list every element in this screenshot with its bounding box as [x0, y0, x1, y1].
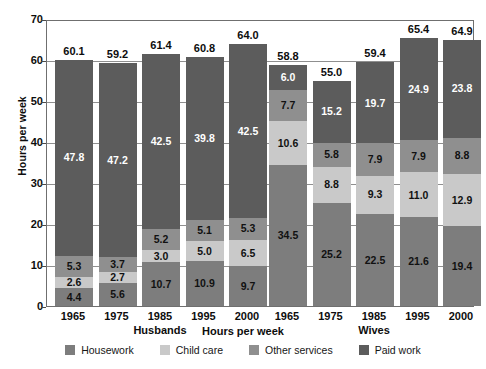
bar-husbands-1995[interactable]: 10.95.05.139.860.8	[186, 57, 224, 306]
bar-segment-housework[interactable]: 10.7	[142, 262, 180, 306]
bar-wives-1965[interactable]: 34.510.67.76.058.8	[269, 65, 307, 306]
bar-segment-child-care[interactable]: 5.0	[186, 241, 224, 262]
bar-segment-child-care[interactable]: 3.0	[142, 250, 180, 262]
bar-husbands-2000[interactable]: 9.76.55.342.564.0	[229, 44, 267, 306]
bar-segment-other-services[interactable]: 7.9	[356, 143, 394, 175]
legend-item-child-care[interactable]: Child care	[160, 344, 223, 356]
y-axis-tick-70: 70	[9, 13, 43, 25]
legend-label: Paid work	[375, 344, 421, 356]
bar-segment-housework[interactable]: 21.6	[400, 217, 438, 306]
bar-segment-paid-work[interactable]: 15.2	[313, 81, 351, 143]
bar-segment-paid-work[interactable]: 39.8	[186, 57, 224, 220]
legend-swatch-icon	[160, 345, 170, 355]
legend-label: Other services	[265, 344, 333, 356]
bar-segment-paid-work[interactable]: 19.7	[356, 62, 394, 143]
segment-value-label: 10.6	[278, 138, 298, 149]
bar-segment-paid-work[interactable]: 23.8	[443, 40, 481, 138]
x-axis-tick-husbands-1965: 1965	[48, 310, 98, 322]
y-axis-tick-0: 0	[9, 300, 43, 312]
segment-value-label: 2.7	[110, 272, 125, 283]
gridline	[47, 20, 473, 21]
segment-value-label: 10.7	[151, 279, 171, 290]
bar-segment-paid-work[interactable]: 47.2	[99, 63, 137, 257]
bar-segment-housework[interactable]: 25.2	[313, 203, 351, 306]
bar-wives-1995[interactable]: 21.611.07.924.965.4	[400, 38, 438, 306]
segment-value-label: 34.5	[278, 230, 298, 241]
bar-segment-paid-work[interactable]: 42.5	[142, 54, 180, 228]
segment-value-label: 19.4	[452, 261, 472, 272]
bar-segment-paid-work[interactable]: 47.8	[55, 60, 93, 256]
bar-segment-child-care[interactable]: 2.6	[55, 277, 93, 288]
bar-segment-other-services[interactable]: 3.7	[99, 257, 137, 272]
segment-value-label: 11.0	[409, 190, 429, 201]
segment-value-label: 8.8	[455, 150, 470, 161]
bar-segment-child-care[interactable]: 2.7	[99, 272, 137, 283]
bar-segment-other-services[interactable]: 5.3	[229, 218, 267, 240]
legend-swatch-icon	[359, 345, 369, 355]
bar-segment-child-care[interactable]: 11.0	[400, 172, 438, 217]
bar-segment-other-services[interactable]: 5.1	[186, 220, 224, 241]
legend-item-paid-work[interactable]: Paid work	[359, 344, 421, 356]
chart-legend: HouseworkChild careOther servicesPaid wo…	[0, 344, 486, 356]
y-axis-tick-10: 10	[9, 259, 43, 271]
bar-segment-other-services[interactable]: 5.3	[55, 256, 93, 278]
bar-segment-child-care[interactable]: 6.5	[229, 240, 267, 267]
bar-segment-child-care[interactable]: 9.3	[356, 176, 394, 214]
bar-segment-other-services[interactable]: 8.8	[443, 138, 481, 174]
bar-wives-1975[interactable]: 25.28.85.815.255.0	[313, 81, 351, 306]
bar-segment-housework[interactable]: 5.6	[99, 283, 137, 306]
bar-segment-other-services[interactable]: 5.8	[313, 143, 351, 167]
segment-value-label: 6.0	[281, 72, 296, 83]
x-axis-tick-wives-1965: 1965	[262, 310, 312, 322]
bar-husbands-1975[interactable]: 5.62.73.747.259.2	[99, 63, 137, 306]
bar-total-label: 60.8	[180, 43, 230, 54]
segment-value-label: 4.4	[67, 292, 82, 303]
segment-value-label: 9.3	[368, 189, 383, 200]
bar-segment-child-care[interactable]: 12.9	[443, 174, 481, 227]
bar-husbands-1965[interactable]: 4.42.65.347.860.1	[55, 60, 93, 306]
segment-value-label: 5.0	[197, 246, 212, 257]
segment-value-label: 5.8	[324, 149, 339, 160]
legend-label: Child care	[176, 344, 223, 356]
segment-value-label: 23.8	[452, 83, 472, 94]
bar-segment-other-services[interactable]: 7.7	[269, 90, 307, 122]
bar-segment-paid-work[interactable]: 6.0	[269, 65, 307, 90]
x-axis-tick-wives-1995: 1995	[393, 310, 443, 322]
segment-value-label: 5.2	[154, 234, 169, 245]
bar-segment-housework[interactable]: 19.4	[443, 226, 481, 306]
bar-segment-housework[interactable]: 4.4	[55, 288, 93, 306]
y-axis-tick-30: 30	[9, 177, 43, 189]
x-axis-tick-wives-1975: 1975	[306, 310, 356, 322]
stacked-bar-chart: Hours per week 010203040506070 4.42.65.3…	[0, 0, 486, 369]
segment-value-label: 3.7	[110, 259, 125, 270]
segment-value-label: 5.1	[197, 225, 212, 236]
segment-value-label: 12.9	[452, 195, 472, 206]
segment-value-label: 25.2	[321, 249, 341, 260]
segment-value-label: 39.8	[194, 133, 214, 144]
bar-segment-housework[interactable]: 9.7	[229, 266, 267, 306]
segment-value-label: 3.0	[154, 251, 169, 262]
bar-segment-paid-work[interactable]: 42.5	[229, 44, 267, 218]
legend-item-other-services[interactable]: Other services	[249, 344, 333, 356]
bar-segment-housework[interactable]: 10.9	[186, 261, 224, 306]
segment-value-label: 5.6	[110, 289, 125, 300]
bar-wives-2000[interactable]: 19.412.98.823.864.9	[443, 40, 481, 306]
bar-husbands-1985[interactable]: 10.73.05.242.561.4	[142, 54, 180, 306]
x-axis-tick-wives-2000: 2000	[436, 310, 486, 322]
bar-wives-1985[interactable]: 22.59.37.919.759.4	[356, 62, 394, 306]
bar-segment-paid-work[interactable]: 24.9	[400, 38, 438, 140]
segment-value-label: 2.6	[67, 277, 82, 288]
segment-value-label: 19.7	[365, 98, 385, 109]
segment-value-label: 42.5	[238, 126, 258, 137]
bar-total-label: 65.4	[394, 24, 444, 35]
bar-segment-child-care[interactable]: 10.6	[269, 121, 307, 164]
bar-segment-other-services[interactable]: 5.2	[142, 229, 180, 250]
bar-segment-child-care[interactable]: 8.8	[313, 167, 351, 203]
bar-segment-housework[interactable]: 22.5	[356, 214, 394, 306]
plot-area: 4.42.65.347.860.15.62.73.747.259.210.73.…	[46, 20, 474, 307]
bar-segment-other-services[interactable]: 7.9	[400, 140, 438, 172]
bar-segment-housework[interactable]: 34.5	[269, 165, 307, 306]
segment-value-label: 47.2	[107, 155, 127, 166]
legend-item-housework[interactable]: Housework	[65, 344, 134, 356]
segment-value-label: 7.7	[281, 100, 296, 111]
